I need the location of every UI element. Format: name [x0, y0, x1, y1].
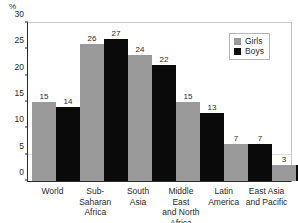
bar-girls[interactable]: 15	[176, 102, 200, 181]
x-axis-label: World	[31, 184, 74, 223]
bar-value-label: 13	[208, 103, 217, 112]
legend-label: Boys	[245, 47, 264, 56]
bar-girls[interactable]: 3	[272, 165, 296, 181]
bar-boys[interactable]: 14	[56, 107, 80, 181]
y-axis-tick-label: 0	[19, 168, 28, 177]
bar-group: 33	[272, 23, 298, 181]
bar-group: 2422	[128, 23, 176, 181]
x-axis-label: SouthAsia	[117, 184, 160, 223]
bar-group: 2627	[80, 23, 128, 181]
bar-slot: 3	[272, 23, 296, 181]
bar-value-label: 14	[64, 97, 73, 106]
y-axis-tick-label: 25	[15, 36, 28, 45]
y-axis-tick-label: 10	[15, 115, 28, 124]
x-axis-label: East Asiaand Pacific	[245, 184, 288, 223]
y-axis-tick-label: 5	[19, 141, 28, 150]
bar-boys[interactable]: 3	[296, 165, 298, 181]
x-axis-label: LatinAmerica	[202, 184, 245, 223]
bar-chart: % 051015202530 15142627242215137733 Worl…	[0, 0, 298, 223]
bar-group: 1514	[32, 23, 80, 181]
bar-group: 1513	[176, 23, 224, 181]
legend-swatch-icon	[234, 48, 241, 55]
legend-item-girls[interactable]: Girls	[234, 37, 264, 46]
bar-slot: 15	[176, 23, 200, 181]
bar-value-label: 22	[160, 55, 169, 64]
y-axis-tick-label: 30	[15, 10, 28, 19]
bar-value-label: 24	[136, 45, 145, 54]
bar-girls[interactable]: 15	[32, 102, 56, 181]
bar-value-label: 7	[258, 134, 262, 143]
legend-item-boys[interactable]: Boys	[234, 47, 264, 56]
bar-boys[interactable]: 13	[200, 113, 224, 181]
bar-value-label: 27	[112, 29, 121, 38]
bar-boys[interactable]: 7	[248, 144, 272, 181]
bar-value-label: 15	[40, 92, 49, 101]
bar-value-label: 26	[88, 34, 97, 43]
bar-slot: 3	[296, 23, 298, 181]
bar-slot: 26	[80, 23, 104, 181]
bar-girls[interactable]: 7	[224, 144, 248, 181]
bar-value-label: 7	[234, 134, 238, 143]
bar-slot: 13	[200, 23, 224, 181]
legend-label: Girls	[245, 37, 262, 46]
bar-value-label: 15	[184, 92, 193, 101]
bar-slot: 14	[56, 23, 80, 181]
y-axis-tick-label: 15	[15, 89, 28, 98]
bar-slot: 15	[32, 23, 56, 181]
bar-slot: 27	[104, 23, 128, 181]
chart-legend: GirlsBoys	[229, 33, 270, 60]
bar-boys[interactable]: 22	[152, 65, 176, 181]
x-axis-labels: WorldSub-SaharanAfricaSouthAsiaMiddle Ea…	[27, 184, 292, 223]
bar-value-label: 3	[282, 155, 286, 164]
x-axis-label: Middle Eastand NorthAfrica	[159, 184, 202, 223]
bar-girls[interactable]: 24	[128, 55, 152, 181]
y-axis-tick-label: 20	[15, 62, 28, 71]
bar-girls[interactable]: 26	[80, 44, 104, 181]
bar-boys[interactable]: 27	[104, 39, 128, 181]
bar-slot: 24	[128, 23, 152, 181]
legend-swatch-icon	[234, 38, 241, 45]
bar-slot: 22	[152, 23, 176, 181]
x-axis-label: Sub-SaharanAfrica	[74, 184, 117, 223]
